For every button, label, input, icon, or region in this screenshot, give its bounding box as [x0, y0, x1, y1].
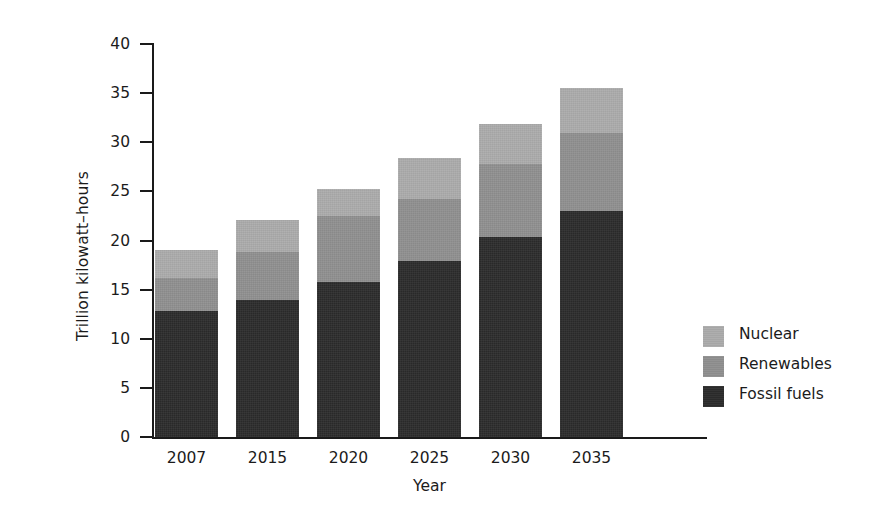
y-axis-tick-label: 40: [78, 35, 130, 53]
bar-segment-renewables-2030[interactable]: [479, 164, 542, 237]
bar-segment-nuclear-2025[interactable]: [398, 158, 461, 199]
bar-2025[interactable]: [398, 44, 461, 437]
plot-area: [155, 44, 700, 437]
bar-segment-nuclear-2007[interactable]: [155, 250, 218, 278]
x-axis-label-2015: 2015: [223, 449, 313, 467]
bar-segment-renewables-2020[interactable]: [317, 216, 380, 282]
bar-segment-nuclear-2035[interactable]: [560, 88, 623, 133]
bar-segment-renewables-2007[interactable]: [155, 278, 218, 311]
bar-segment-nuclear-2015[interactable]: [236, 220, 299, 252]
legend-swatch-icon: [703, 386, 724, 407]
x-axis-label-2020: 2020: [304, 449, 394, 467]
y-axis-tick: [140, 141, 153, 143]
x-axis-label-2030: 2030: [466, 449, 556, 467]
y-axis-tick: [140, 436, 153, 438]
bar-segment-nuclear-2020[interactable]: [317, 189, 380, 216]
bar-2015[interactable]: [236, 44, 299, 437]
bar-segment-fossil-fuels-2030[interactable]: [479, 237, 542, 437]
legend-label: Nuclear: [739, 325, 799, 343]
x-axis-title: Year: [152, 477, 707, 495]
y-axis-tick-label: 10: [78, 330, 130, 348]
bar-2030[interactable]: [479, 44, 542, 437]
y-axis-tick-label: 5: [78, 379, 130, 397]
y-axis-tick: [140, 43, 153, 45]
y-axis-tick: [140, 190, 153, 192]
bar-segment-renewables-2015[interactable]: [236, 252, 299, 300]
y-axis-tick: [140, 289, 153, 291]
y-axis-tick: [140, 387, 153, 389]
stacked-bar-chart: Trillion kilowatt–hours 0510152025303540…: [0, 0, 885, 516]
bar-segment-fossil-fuels-2020[interactable]: [317, 282, 380, 437]
legend-swatch-icon: [703, 356, 724, 377]
y-axis-tick-label: 30: [78, 133, 130, 151]
y-axis-tick-label: 35: [78, 84, 130, 102]
bar-2035[interactable]: [560, 44, 623, 437]
legend-label: Fossil fuels: [739, 385, 824, 403]
y-axis-tick-label: 15: [78, 281, 130, 299]
bar-segment-renewables-2035[interactable]: [560, 133, 623, 211]
x-axis-label-2007: 2007: [142, 449, 232, 467]
bar-segment-fossil-fuels-2007[interactable]: [155, 311, 218, 437]
x-axis-label-2025: 2025: [385, 449, 475, 467]
legend-swatch-icon: [703, 326, 724, 347]
y-axis-tick: [140, 338, 153, 340]
bar-segment-nuclear-2030[interactable]: [479, 124, 542, 164]
bar-segment-fossil-fuels-2035[interactable]: [560, 211, 623, 437]
legend-label: Renewables: [739, 355, 832, 373]
y-axis-tick-label: 20: [78, 232, 130, 250]
bar-segment-fossil-fuels-2025[interactable]: [398, 261, 461, 437]
y-axis-tick-label: 25: [78, 182, 130, 200]
bar-2007[interactable]: [155, 44, 218, 437]
y-axis-tick-label: 0: [78, 428, 130, 446]
x-axis-line: [152, 437, 707, 439]
bar-segment-fossil-fuels-2015[interactable]: [236, 300, 299, 437]
x-axis-label-2035: 2035: [547, 449, 637, 467]
bar-2020[interactable]: [317, 44, 380, 437]
y-axis-tick: [140, 92, 153, 94]
y-axis-title: Trillion kilowatt–hours: [74, 116, 92, 396]
bar-segment-renewables-2025[interactable]: [398, 199, 461, 261]
y-axis-tick: [140, 240, 153, 242]
